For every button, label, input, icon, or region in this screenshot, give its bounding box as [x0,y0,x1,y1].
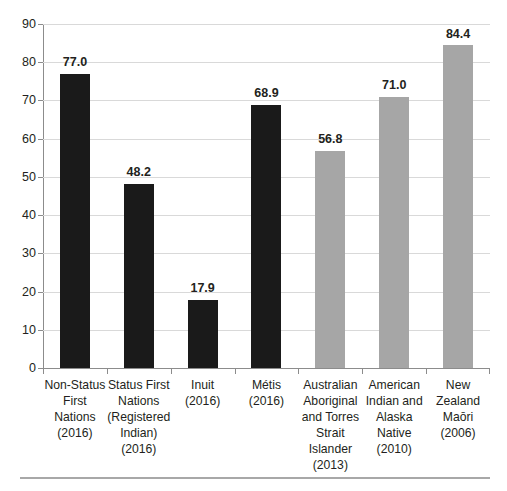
x-axis-label-line: and Torres [298,409,362,425]
y-axis-tick-label: 0 [0,362,36,375]
footer-divider [20,477,490,479]
x-axis-category-label: AmericanIndian andAlaskaNative(2010) [362,377,426,457]
x-axis-tick-mark [107,368,108,374]
x-axis-category-label: AustralianAboriginaland TorresStraitIsla… [298,377,362,474]
figure-bar-chart: 0102030405060708090 77.048.217.968.956.8… [0,0,507,491]
y-axis-tick-mark [38,368,43,369]
x-axis-label-line: (2016) [235,393,299,409]
bar[interactable] [443,45,473,368]
x-axis-category-label: Non-StatusFirstNations(2016) [43,377,107,441]
bar-group[interactable]: 68.9 [235,24,299,368]
x-axis-label-line: Indian and [362,393,426,409]
x-axis-label-line: Maōri [426,409,490,425]
x-axis-tick-mark [489,368,490,374]
y-axis-tick-label: 70 [0,94,36,107]
bar-value-label: 48.2 [127,166,151,179]
x-axis-label-line: Nations [43,409,107,425]
x-axis-label-line: American [362,377,426,393]
y-axis-tick-label: 50 [0,171,36,184]
y-axis-tick-labels: 0102030405060708090 [0,0,36,491]
x-axis-label-line: Strait [298,425,362,441]
y-axis-tick-mark [38,292,43,293]
x-axis-label-line: Zealand [426,393,490,409]
bar-value-label: 77.0 [63,56,87,69]
x-axis-label-line: Status First [107,377,171,393]
bar-group[interactable]: 56.8 [298,24,362,368]
x-axis-label-line: (2013) [298,457,362,473]
x-axis-label-line: Métis [235,377,299,393]
x-axis-tick-mark [298,368,299,374]
bar-value-label: 68.9 [254,87,278,100]
y-axis-tick-label: 90 [0,18,36,31]
y-axis-tick-mark [38,177,43,178]
bar[interactable] [188,300,218,368]
x-axis-tick-mark [171,368,172,374]
x-axis-label-line: Indian) [107,425,171,441]
x-axis-label-line: Inuit [171,377,235,393]
y-axis-tick-label: 80 [0,56,36,69]
bar-group[interactable]: 71.0 [362,24,426,368]
x-axis-category-label: Status FirstNations(RegisteredIndian)(20… [107,377,171,457]
y-axis-tick-label: 30 [0,247,36,260]
x-axis-label-line: First [43,393,107,409]
y-axis-tick-label: 40 [0,209,36,222]
x-axis-label-line: (2016) [43,425,107,441]
x-axis-category-label: NewZealandMaōri(2006) [426,377,490,441]
x-axis-label-line: Australian [298,377,362,393]
x-axis-category-labels: Non-StatusFirstNations(2016)Status First… [43,377,490,472]
x-axis-label-line: Non-Status [43,377,107,393]
y-axis-tick-mark [38,139,43,140]
x-axis-tick-mark [362,368,363,374]
x-axis-tick-mark [235,368,236,374]
bar-group[interactable]: 17.9 [171,24,235,368]
x-axis-label-line: Alaska [362,409,426,425]
x-axis-tick-mark [426,368,427,374]
x-axis-category-label: Métis(2016) [235,377,299,409]
x-axis-label-line: (2016) [171,393,235,409]
bar[interactable] [60,74,90,368]
y-axis-tick-mark [38,100,43,101]
x-axis-label-line: (2010) [362,441,426,457]
bar-value-label: 17.9 [190,282,214,295]
x-axis-label-line: Nations [107,393,171,409]
x-axis-label-line: (2006) [426,425,490,441]
bar-group[interactable]: 84.4 [426,24,490,368]
bar-value-label: 56.8 [318,133,342,146]
x-axis-label-line: (2016) [107,441,171,457]
bar[interactable] [251,105,281,368]
y-axis-tick-label: 10 [0,324,36,337]
bar-value-label: 84.4 [446,28,470,41]
y-axis-tick-label: 20 [0,286,36,299]
x-axis-label-line: Islander [298,441,362,457]
x-axis-label-line: Aboriginal [298,393,362,409]
x-axis-category-label: Inuit(2016) [171,377,235,409]
x-axis-label-line: New [426,377,490,393]
bar[interactable] [124,184,154,368]
x-axis-tick-marks [43,368,490,375]
bar-value-label: 71.0 [382,79,406,92]
plot-area: 77.048.217.968.956.871.084.4 [43,24,490,368]
y-axis-tick-mark [38,253,43,254]
y-axis-tick-mark [38,24,43,25]
y-axis-tick-mark [38,330,43,331]
bar-group[interactable]: 48.2 [107,24,171,368]
bar[interactable] [315,151,345,368]
bar-group[interactable]: 77.0 [43,24,107,368]
bar[interactable] [379,97,409,368]
x-axis-label-line: Native [362,425,426,441]
y-axis-tick-mark [38,215,43,216]
y-axis-tick-label: 60 [0,133,36,146]
x-axis-label-line: (Registered [107,409,171,425]
x-axis-tick-mark [43,368,44,374]
y-axis-tick-mark [38,62,43,63]
